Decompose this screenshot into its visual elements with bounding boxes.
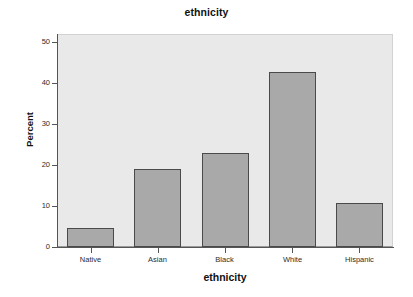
x-axis-tick-label: Hispanic bbox=[326, 255, 393, 264]
x-axis-tick-label: Black bbox=[191, 255, 258, 264]
x-axis-tick-mark bbox=[91, 248, 92, 253]
x-axis-tick-label: White bbox=[259, 255, 326, 264]
bar-asian bbox=[134, 169, 181, 247]
y-axis-tick-label: 0 bbox=[26, 242, 50, 251]
bar-black bbox=[202, 153, 249, 247]
y-axis-tick-mark bbox=[52, 42, 57, 43]
x-axis-tick-mark bbox=[158, 248, 159, 253]
y-axis-tick-mark bbox=[52, 124, 57, 125]
y-axis-tick-mark bbox=[52, 165, 57, 166]
y-axis-tick-label: 40 bbox=[26, 78, 50, 87]
bar-chart-figure: ethnicity 01020304050 Percent NativeAsia… bbox=[0, 0, 413, 297]
y-axis-line bbox=[57, 34, 58, 248]
x-axis-tick-mark bbox=[292, 248, 293, 253]
bar-white bbox=[269, 72, 316, 247]
x-axis-title: ethnicity bbox=[57, 271, 393, 283]
x-axis-tick-label: Native bbox=[57, 255, 124, 264]
chart-title: ethnicity bbox=[0, 6, 413, 18]
bar-native bbox=[67, 228, 114, 247]
y-axis-title: Percent bbox=[24, 95, 35, 165]
y-axis-tick-mark bbox=[52, 247, 57, 248]
bar-hispanic bbox=[336, 203, 383, 247]
y-axis-tick-label: 10 bbox=[26, 201, 50, 210]
y-axis-tick-mark bbox=[52, 206, 57, 207]
y-axis-tick-mark bbox=[52, 83, 57, 84]
x-axis-tick-mark bbox=[359, 248, 360, 253]
x-axis-tick-mark bbox=[225, 248, 226, 253]
y-axis-tick-label: 50 bbox=[26, 37, 50, 46]
x-axis-tick-label: Asian bbox=[124, 255, 191, 264]
